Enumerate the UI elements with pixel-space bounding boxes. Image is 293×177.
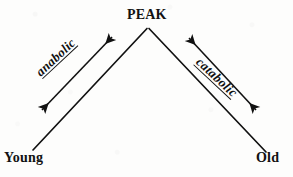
descending-limb: [149, 29, 266, 153]
diagram-vector-layer: [0, 0, 293, 177]
ascending-limb: [33, 29, 147, 151]
node-label-old: Old: [256, 150, 279, 166]
diagram-canvas: PEAK Young Old anabolic catabolic: [0, 0, 293, 177]
node-label-young: Young: [4, 150, 43, 166]
node-label-peak: PEAK: [127, 7, 167, 23]
